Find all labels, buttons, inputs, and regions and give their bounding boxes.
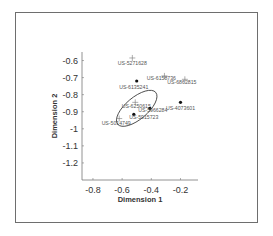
dot-marker: [135, 79, 138, 82]
point-label: US-6862815: [167, 79, 196, 85]
data-point: US-5014749: [102, 116, 131, 126]
x-ticks: -0.8-0.6-0.4-0.2: [85, 178, 188, 195]
y-tick-label: -0.8: [62, 90, 78, 100]
point-label: US-5915723: [129, 114, 158, 120]
y-ticks: -0.6-0.7-0.8-0.9-1-1.1-1.2: [62, 56, 84, 168]
scatter-chart: -0.8-0.6-0.4-0.2 -0.6-0.7-0.8-0.9-1-1.1-…: [0, 0, 273, 236]
x-axis-title: Dimension 1: [118, 195, 163, 204]
y-tick-label: -0.6: [62, 56, 78, 66]
data-point: US-5966284: [138, 107, 167, 114]
x-tick-label: -0.6: [114, 185, 130, 195]
y-tick-label: -0.7: [62, 73, 78, 83]
point-label: US-5966284: [138, 107, 167, 113]
data-point: US-5915723: [129, 113, 158, 121]
point-label: US-5014749: [102, 120, 131, 126]
data-point: US-4073601: [166, 101, 195, 112]
dot-marker: [179, 101, 182, 104]
point-label: US-6135241: [119, 84, 148, 90]
y-tick-label: -1.2: [62, 158, 78, 168]
y-tick-label: -1: [70, 124, 78, 134]
x-tick-label: -0.2: [173, 185, 189, 195]
y-tick-label: -1.1: [62, 141, 78, 151]
point-label: US-5271628: [118, 60, 147, 66]
y-axis-title: Dimension 2: [50, 94, 59, 139]
data-point: US-5271628: [118, 55, 147, 66]
x-tick-label: -0.4: [144, 185, 160, 195]
data-point: US-6135241: [119, 79, 148, 90]
point-label: US-4073601: [166, 105, 195, 111]
x-tick-label: -0.8: [85, 185, 101, 195]
y-tick-label: -0.9: [62, 107, 78, 117]
